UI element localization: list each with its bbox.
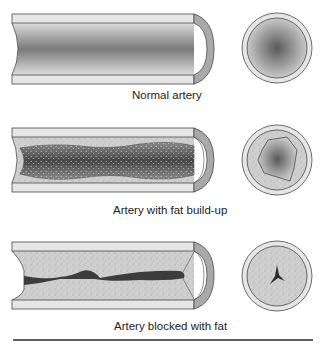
buildup-artery-cross-section [242, 125, 312, 195]
blocked-artery-cross-section [242, 241, 312, 311]
label-normal-artery: Normal artery [132, 89, 202, 101]
buildup-artery-longitudinal [12, 128, 214, 192]
label-blocked-artery: Artery blocked with fat [114, 320, 227, 332]
artery-diagram [0, 0, 323, 343]
blocked-artery-longitudinal [12, 242, 214, 309]
normal-artery-longitudinal [12, 14, 214, 84]
normal-artery-cross-section [242, 13, 312, 83]
label-fat-buildup: Artery with fat build-up [113, 204, 227, 216]
